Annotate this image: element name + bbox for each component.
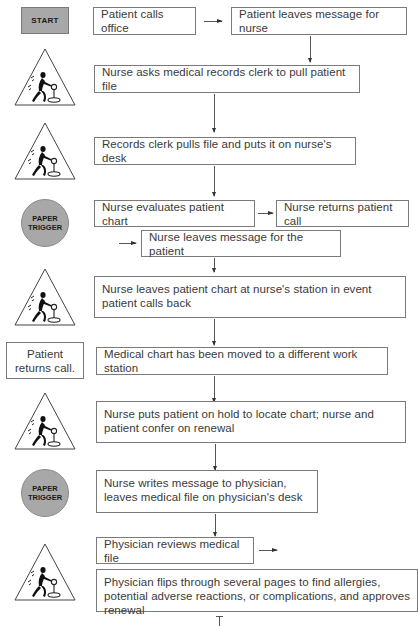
arrow-down [214,258,215,272]
arrow-right [259,550,277,551]
arrow-down [310,36,311,62]
paper-trigger-line1: PAPER [32,484,57,493]
step-text: Nurse leaves patient chart at nurse's st… [102,282,398,310]
worker-pushing-cart-icon [14,268,76,326]
paper-trigger-badge: PAPERTRIGGER [21,199,69,247]
step-text: Nurse asks medical records clerk to pull… [102,65,352,93]
arrow-down [214,166,215,196]
arrow-down [215,514,216,536]
paper-trigger-badge: PAPERTRIGGER [21,469,69,517]
paper-trigger-line1: PAPER [32,214,57,223]
note-patient-returns-call: Patient returns call. [6,342,84,379]
arrow-down [214,376,215,402]
arrow-down [214,94,215,132]
step-nurse-evaluates-chart: Nurse evaluates patient chart [94,200,255,227]
connector-continues [219,616,220,626]
arrow-right [204,21,222,22]
step-text: Physician flips through several pages to… [104,575,410,617]
step-nurse-leaves-message: Nurse leaves message for the patient [141,230,341,257]
step-patient-leaves-message: Patient leaves message for nurse [231,7,407,35]
step-text: Physician reviews medical file [104,537,246,565]
worker-pushing-cart-icon [14,543,76,601]
step-text: Nurse evaluates patient chart [102,200,247,228]
paper-trigger-line2: TRIGGER [28,223,62,232]
step-text: Nurse leaves message for the patient [149,230,333,258]
arrow-right [119,243,136,244]
arrow-right [258,213,273,214]
note-text: Patient returns call. [10,347,80,375]
step-text: Nurse puts patient on hold to locate cha… [104,407,398,435]
step-text: Nurse writes message to physician, leave… [104,476,310,504]
worker-pushing-cart-icon [14,392,76,450]
step-chart-moved: Medical chart has been moved to a differ… [96,347,388,375]
step-physician-reviews-file: Physician reviews medical file [96,537,254,564]
arrow-down [215,444,216,470]
worker-pushing-cart-icon [14,122,76,180]
step-physician-flips-pages: Physician flips through several pages to… [96,569,418,612]
step-text: Records clerk pulls file and puts it on … [102,137,348,165]
step-patient-calls-office: Patient calls office [93,7,196,35]
step-text: Patient leaves message for nurse [239,7,399,35]
step-text: Nurse returns patient call [284,200,401,228]
step-nurse-leaves-chart: Nurse leaves patient chart at nurse's st… [94,276,406,318]
step-nurse-asks-clerk: Nurse asks medical records clerk to pull… [94,65,360,93]
worker-pushing-cart-icon [14,48,76,106]
step-nurse-writes-message: Nurse writes message to physician, leave… [96,470,318,513]
start-label: START [31,16,59,25]
step-nurse-returns-call: Nurse returns patient call [276,200,409,227]
step-text: Patient calls office [101,7,188,35]
step-nurse-puts-on-hold: Nurse puts patient on hold to locate cha… [96,401,406,443]
step-clerk-pulls-file: Records clerk pulls file and puts it on … [94,137,356,165]
paper-trigger-line2: TRIGGER [28,493,62,502]
step-text: Medical chart has been moved to a differ… [104,347,380,375]
arrow-down [214,319,215,345]
start-badge: START [21,7,69,34]
